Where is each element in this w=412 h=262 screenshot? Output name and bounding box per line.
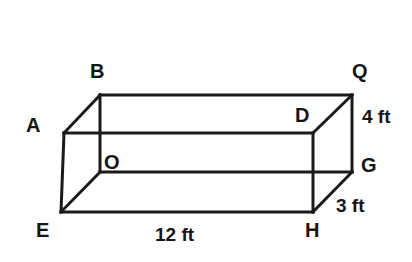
vertex-label-G: G bbox=[361, 155, 377, 175]
vertex-label-H: H bbox=[305, 220, 319, 240]
edge-Q-D bbox=[313, 95, 352, 133]
edge-E-O bbox=[61, 172, 100, 212]
vertex-label-Q: Q bbox=[352, 61, 368, 81]
geometry-figure: A B D Q E O H G 12 ft 4 ft 3 ft bbox=[0, 0, 412, 262]
vertex-label-D: D bbox=[295, 105, 309, 125]
dimension-label-depth: 3 ft bbox=[336, 196, 365, 215]
edge-A-E bbox=[61, 133, 64, 212]
vertex-label-B: B bbox=[90, 61, 104, 81]
vertex-label-A: A bbox=[26, 115, 40, 135]
prism-wireframe bbox=[0, 0, 412, 262]
dimension-label-length: 12 ft bbox=[155, 225, 194, 244]
dimension-label-height: 4 ft bbox=[362, 107, 391, 126]
edge-A-B bbox=[64, 95, 100, 133]
vertex-label-E: E bbox=[36, 220, 49, 240]
vertex-label-O: O bbox=[104, 152, 120, 172]
